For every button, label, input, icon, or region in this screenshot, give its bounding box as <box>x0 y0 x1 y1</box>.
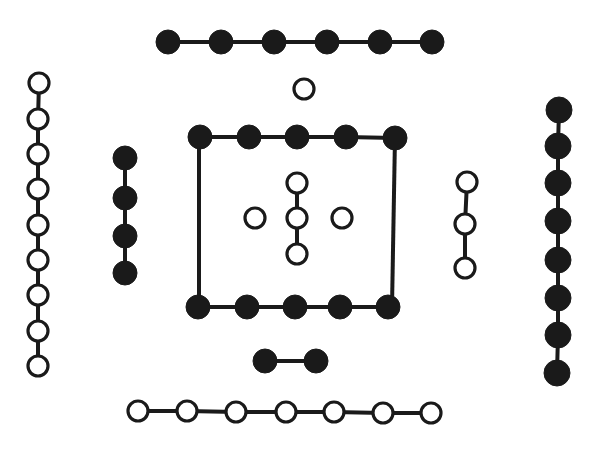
white-dot <box>177 401 197 421</box>
white-dot <box>226 402 246 422</box>
hetu-diagram <box>0 0 606 450</box>
black-dot <box>283 295 307 319</box>
black-dot <box>156 30 180 54</box>
white-dot <box>28 285 48 305</box>
left-column-group <box>28 73 49 376</box>
black-dot <box>546 97 572 123</box>
white-dot <box>373 403 393 423</box>
white-dot <box>455 258 475 278</box>
white-dot <box>287 244 307 264</box>
white-dot <box>276 402 296 422</box>
white-dot <box>28 356 48 376</box>
black-dot <box>186 295 210 319</box>
white-dot <box>287 173 307 193</box>
black-dot <box>328 295 352 319</box>
black-dot <box>545 208 571 234</box>
center-left-single-group <box>245 208 265 228</box>
black-dot <box>262 30 286 54</box>
black-dot <box>285 125 309 149</box>
black-dot <box>209 30 233 54</box>
black-dot <box>545 170 571 196</box>
black-dot <box>368 30 392 54</box>
white-dot <box>287 208 307 228</box>
dot-groups <box>28 30 572 423</box>
white-dot <box>294 79 314 99</box>
inner-left-column-group <box>113 146 137 285</box>
bottom-row-group <box>128 401 441 423</box>
center-right-single-group <box>332 208 352 228</box>
bottom-pair-group <box>253 349 328 373</box>
white-dot <box>28 321 48 341</box>
center-column-group <box>287 173 307 264</box>
top-single-group <box>294 79 314 99</box>
white-dot <box>128 401 148 421</box>
black-dot <box>237 125 261 149</box>
black-dot <box>315 30 339 54</box>
black-dot <box>545 133 571 159</box>
top-row-group <box>156 30 444 54</box>
square-right-side <box>392 137 395 307</box>
black-dot <box>253 349 277 373</box>
inner-right-column-group <box>455 172 477 278</box>
black-dot <box>304 349 328 373</box>
white-dot <box>245 208 265 228</box>
black-dot <box>376 295 400 319</box>
black-dot <box>383 126 407 150</box>
black-dot <box>545 322 571 348</box>
white-dot <box>28 109 48 129</box>
black-dot <box>113 146 137 170</box>
white-dot <box>28 215 48 235</box>
black-dot <box>235 295 259 319</box>
black-dot <box>113 224 137 248</box>
square-bottom-group <box>186 295 400 319</box>
black-dot <box>545 247 571 273</box>
black-dot <box>545 285 571 311</box>
white-dot <box>421 403 441 423</box>
white-dot <box>455 214 475 234</box>
black-dot <box>334 125 358 149</box>
white-dot <box>29 73 49 93</box>
white-dot <box>28 144 48 164</box>
right-column-group <box>544 97 572 386</box>
white-dot <box>332 208 352 228</box>
white-dot <box>457 172 477 192</box>
white-dot <box>324 402 344 422</box>
black-dot <box>113 186 137 210</box>
black-dot <box>544 360 570 386</box>
black-dot <box>420 30 444 54</box>
white-dot <box>28 179 48 199</box>
square-top-group <box>188 125 407 150</box>
white-dot <box>28 250 48 270</box>
black-dot <box>188 125 212 149</box>
black-dot <box>113 261 137 285</box>
